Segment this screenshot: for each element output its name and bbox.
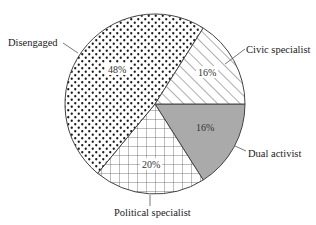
pct-disengaged: 48% [108, 64, 126, 75]
pct-dual: 16% [196, 122, 214, 133]
label-political-specialist: Political specialist [114, 207, 191, 218]
leader-line-dual [235, 146, 246, 151]
pie-chart-figure: Disengaged Civic specialist Dual activis… [0, 0, 316, 225]
pie-chart: Disengaged Civic specialist Dual activis… [0, 0, 316, 225]
label-disengaged: Disengaged [8, 37, 58, 48]
leader-line-disengaged [63, 43, 78, 53]
label-dual-activist: Dual activist [248, 148, 301, 159]
label-civic-specialist: Civic specialist [246, 44, 311, 55]
pct-civic: 16% [198, 67, 216, 78]
pct-political: 20% [142, 159, 160, 170]
